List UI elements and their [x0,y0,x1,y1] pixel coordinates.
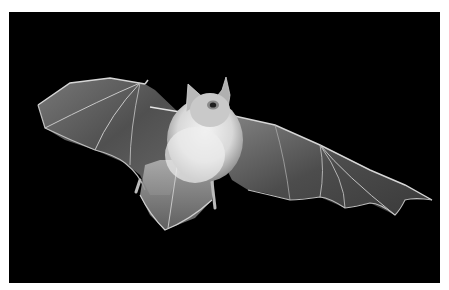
bat-illustration [9,12,440,283]
eye [210,102,216,107]
photo [9,12,440,283]
right-wing [222,115,432,215]
